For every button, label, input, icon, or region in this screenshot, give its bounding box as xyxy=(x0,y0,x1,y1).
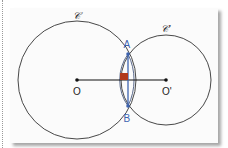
point-b xyxy=(126,104,130,108)
label-o: O xyxy=(73,86,81,97)
label-a: A xyxy=(124,39,131,50)
point-o-prime xyxy=(164,78,168,82)
point-a xyxy=(126,52,130,56)
right-angle-marker xyxy=(120,73,128,80)
label-b: B xyxy=(124,113,131,124)
label-circle-c-prime: 𝒞' xyxy=(161,23,171,34)
geometry-figure: 𝒞 𝒞' A B O O' xyxy=(0,0,228,148)
label-circle-c: 𝒞 xyxy=(73,10,83,21)
label-o-prime: O' xyxy=(162,86,172,97)
point-o xyxy=(75,78,79,82)
